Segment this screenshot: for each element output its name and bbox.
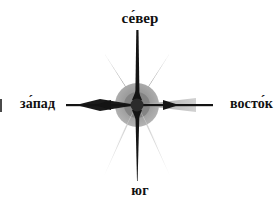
label-east: восто́к	[230, 97, 273, 111]
compass-rose-figure: се́вер за́пад восто́к юг	[0, 0, 280, 209]
label-south: юг	[0, 184, 280, 198]
compass-core	[131, 99, 144, 112]
label-north: се́вер	[0, 11, 280, 26]
edge-artifact	[0, 99, 2, 112]
label-west: за́пад	[20, 97, 55, 111]
